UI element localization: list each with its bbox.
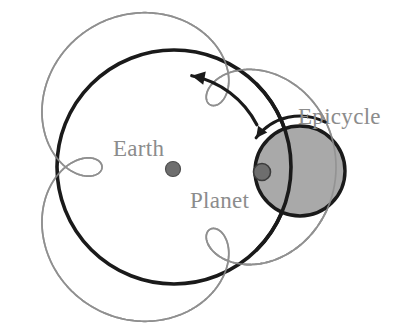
diagram-canvas: Earth Planet Epicycle — [0, 0, 408, 327]
earth-dot — [166, 162, 181, 177]
deferent-arrow-head — [192, 72, 206, 85]
planet-dot — [254, 164, 271, 181]
epicycle-diagram: Earth Planet Epicycle — [0, 0, 408, 327]
earth-label: Earth — [113, 136, 165, 161]
planet-label: Planet — [190, 188, 250, 213]
epicycle-label: Epicycle — [298, 104, 381, 129]
